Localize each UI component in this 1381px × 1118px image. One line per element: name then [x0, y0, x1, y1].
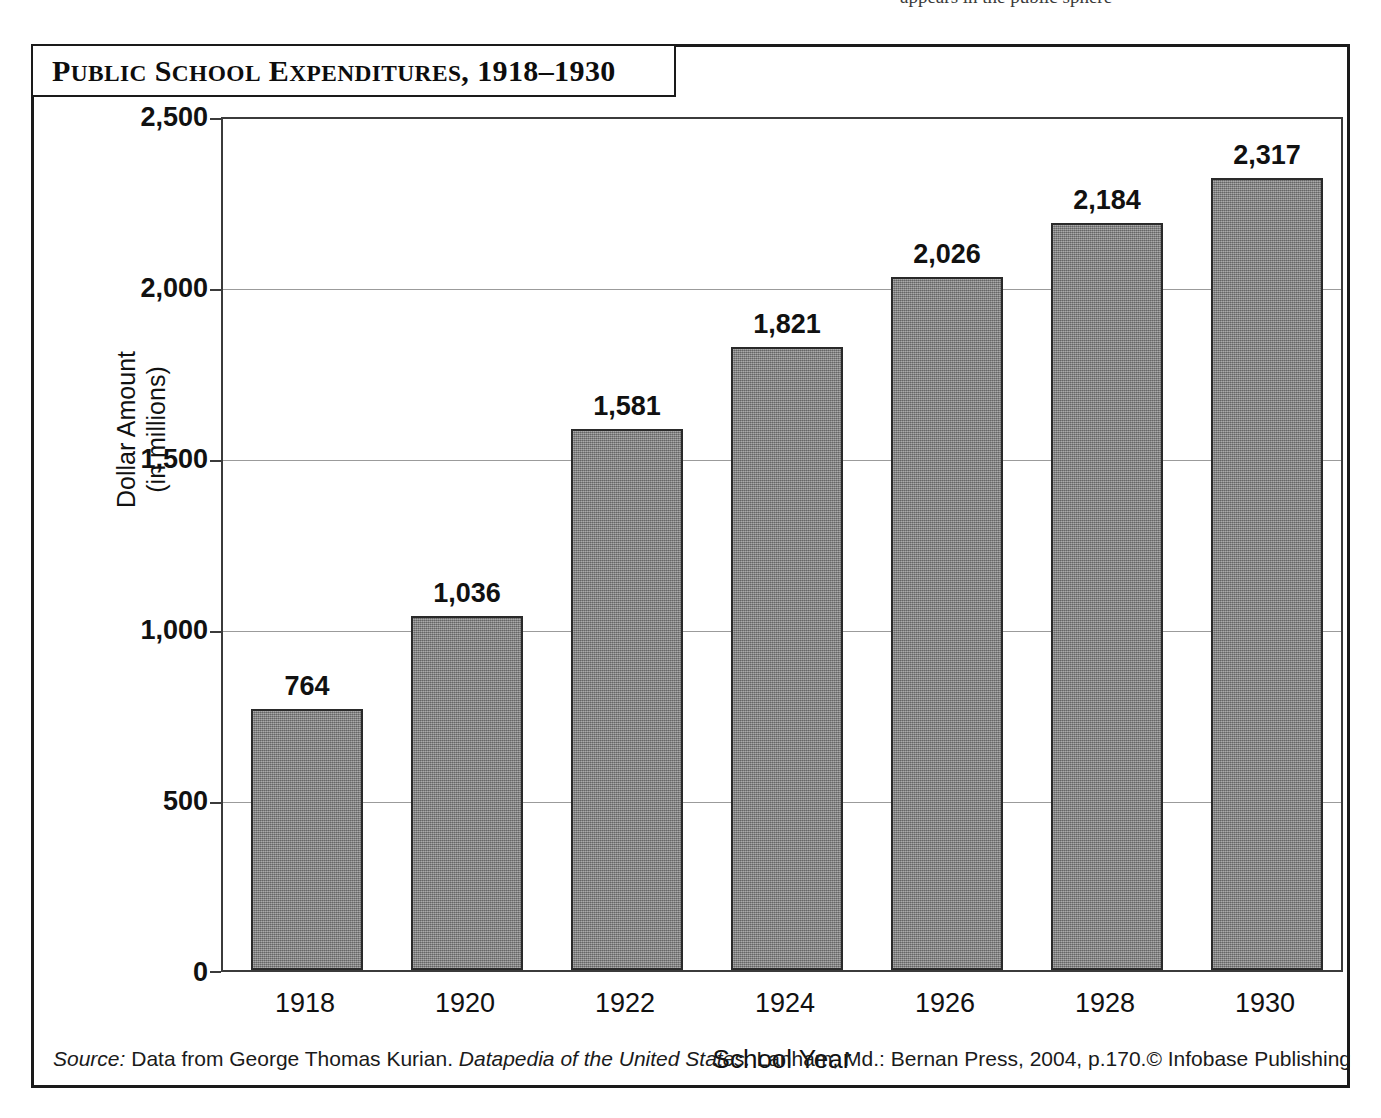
bar-value-1922: 1,581: [571, 391, 683, 422]
bar-value-1924: 1,821: [731, 309, 843, 340]
x-tick-label-1926: 1926: [889, 988, 1001, 1019]
bar-1924[interactable]: [731, 347, 843, 970]
plot-region: Dollar Amount (in millions) 2,500 2,000 …: [34, 100, 1347, 1091]
bar-1928[interactable]: [1051, 223, 1163, 970]
figure-footer: Source: Data from George Thomas Kurian. …: [53, 1047, 1328, 1071]
bar-value-1920: 1,036: [411, 578, 523, 609]
source-work-title: Datapedia of the United States.: [459, 1047, 751, 1070]
x-tick-label-1930: 1930: [1209, 988, 1321, 1019]
bar-1918[interactable]: [251, 709, 363, 970]
source-text-part1: Data from George Thomas Kurian.: [125, 1047, 458, 1070]
source-note: Source: Data from George Thomas Kurian. …: [53, 1047, 1146, 1071]
bar-value-1930: 2,317: [1211, 140, 1323, 171]
x-tick-label-1922: 1922: [569, 988, 681, 1019]
bar-1926[interactable]: [891, 277, 1003, 970]
y-tick-label: 1,500: [140, 444, 220, 475]
source-text-part2: Lanham, Md.: Bernan Press, 2004, p.170.: [751, 1047, 1147, 1070]
source-label: Source:: [53, 1047, 125, 1070]
bar-1922[interactable]: [571, 429, 683, 970]
bar-1930[interactable]: [1211, 178, 1323, 970]
x-tick-label-1924: 1924: [729, 988, 841, 1019]
plot-area: 764 1,036 1,581 1,821 2,026 2,184 2,317: [221, 117, 1343, 972]
y-axis-tick-labels: 2,500 2,000 1,500 1,000 500 0: [114, 100, 220, 1091]
y-tickmark-1000: [210, 631, 221, 633]
y-tickmark-1500: [210, 460, 221, 462]
y-tick-label: 2,000: [140, 273, 220, 304]
bar-value-1926: 2,026: [891, 239, 1003, 270]
y-tick-label: 500: [163, 786, 220, 817]
figure-frame: PUBLIC SCHOOL EXPENDITURES, 1918–1930 Do…: [31, 44, 1350, 1088]
page-bleed-text: appears in the public sphere: [0, 0, 1381, 14]
bar-1920[interactable]: [411, 616, 523, 970]
y-tickmark-0: [210, 971, 221, 973]
y-tickmark-2500: [210, 118, 221, 120]
x-tick-label-1918: 1918: [249, 988, 361, 1019]
x-tick-label-1920: 1920: [409, 988, 521, 1019]
y-tick-label: 2,500: [140, 102, 220, 133]
bar-value-1928: 2,184: [1051, 185, 1163, 216]
bar-value-1918: 764: [251, 671, 363, 702]
y-tickmark-2000: [210, 289, 221, 291]
y-tick-label: 1,000: [140, 615, 220, 646]
chart-title-box: PUBLIC SCHOOL EXPENDITURES, 1918–1930: [31, 44, 676, 97]
y-tickmark-500: [210, 802, 221, 804]
bars-layer: [223, 119, 1341, 970]
x-tick-label-1928: 1928: [1049, 988, 1161, 1019]
page-title: PUBLIC SCHOOL EXPENDITURES, 1918–1930: [52, 54, 616, 88]
copyright-notice: © Infobase Publishing: [1146, 1047, 1351, 1071]
